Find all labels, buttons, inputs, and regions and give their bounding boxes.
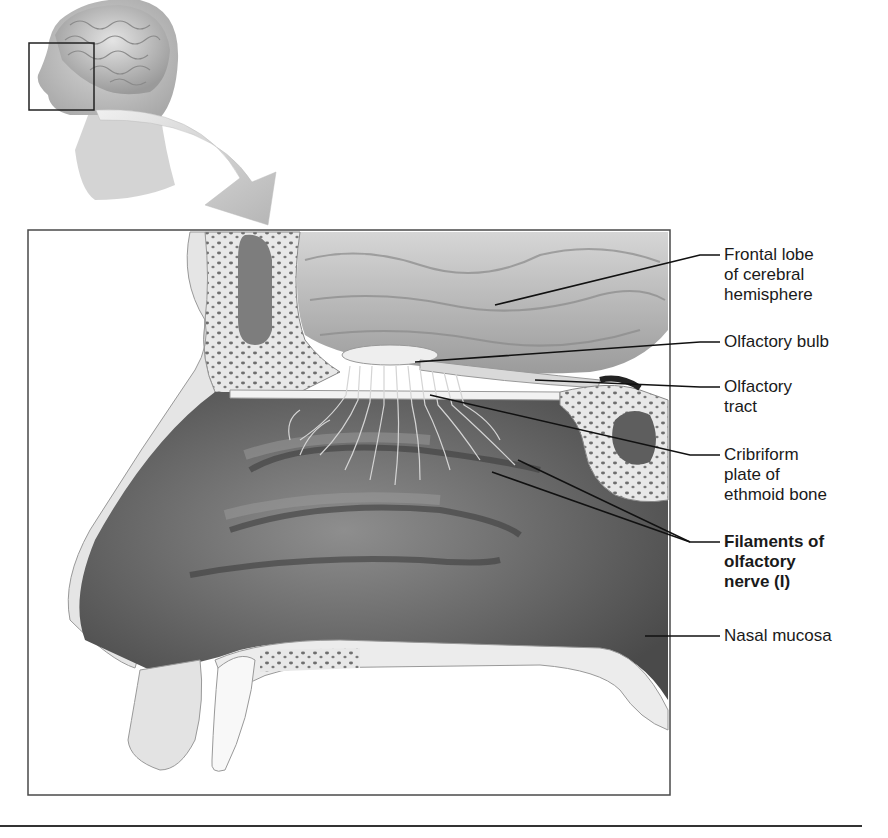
label-nasal-mucosa: Nasal mucosa	[724, 626, 832, 646]
label-filaments-olfactory-nerve: Filaments of olfactory nerve (I)	[724, 532, 824, 592]
palate-spongy-shape	[260, 648, 360, 672]
label-olfactory-tract: Olfactory tract	[724, 377, 792, 417]
cribriform-plate-shape	[230, 390, 560, 400]
label-frontal-lobe: Frontal lobe of cerebral hemisphere	[724, 245, 814, 305]
bottom-divider	[0, 825, 862, 827]
frontal-sinus-shape	[238, 235, 272, 345]
nasal-cavity-illustration	[0, 0, 888, 838]
label-olfactory-bulb: Olfactory bulb	[724, 332, 829, 352]
label-cribriform-plate: Cribriform plate of ethmoid bone	[724, 445, 827, 505]
